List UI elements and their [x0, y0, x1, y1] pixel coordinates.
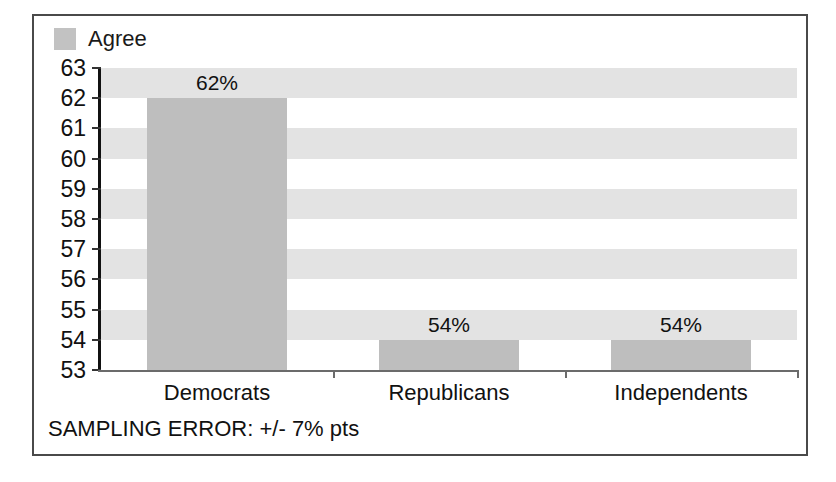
y-tick-mark: [92, 97, 101, 99]
bar-value-label: 62%: [196, 72, 238, 93]
y-tick-label: 56: [60, 268, 86, 291]
chart-figure: Agree 6362616059585756555453 62%54%54% D…: [0, 0, 836, 482]
y-tick-mark: [92, 188, 101, 190]
y-tick-label: 63: [60, 57, 86, 80]
legend-label-agree: Agree: [88, 28, 147, 50]
chart-frame: Agree 6362616059585756555453 62%54%54% D…: [32, 14, 808, 456]
y-tick-label: 53: [60, 359, 86, 382]
bar: [147, 98, 287, 370]
y-tick-label: 62: [60, 87, 86, 110]
bar: [379, 340, 519, 370]
y-tick-label: 61: [60, 117, 86, 140]
y-tick-label: 59: [60, 177, 86, 200]
y-tick-label: 60: [60, 147, 86, 170]
y-tick-mark: [92, 248, 101, 250]
x-axis-tick: [565, 370, 567, 378]
y-tick-mark: [92, 339, 101, 341]
y-tick-mark: [92, 127, 101, 129]
y-tick-label: 57: [60, 238, 86, 261]
x-axis-category-label: Republicans: [388, 382, 509, 404]
x-axis-tick: [333, 370, 335, 378]
x-axis-category-label: Democrats: [164, 382, 270, 404]
bar-value-label: 54%: [428, 314, 470, 335]
y-tick-mark: [92, 158, 101, 160]
bar-value-label: 54%: [660, 314, 702, 335]
x-axis-line: [98, 370, 797, 372]
x-axis-category-label: Independents: [614, 382, 747, 404]
y-tick-mark: [92, 278, 101, 280]
y-tick-label: 55: [60, 298, 86, 321]
y-tick-mark: [92, 67, 101, 69]
x-axis-tick: [797, 370, 799, 378]
y-tick-mark: [92, 218, 101, 220]
y-axis: 6362616059585756555453: [34, 68, 92, 370]
legend-swatch-agree: [54, 28, 76, 50]
y-tick-label: 58: [60, 208, 86, 231]
y-tick-label: 54: [60, 328, 86, 351]
y-tick-mark: [92, 309, 101, 311]
bar: [611, 340, 751, 370]
chart-legend: Agree: [54, 28, 147, 50]
sampling-error-note: SAMPLING ERROR: +/- 7% pts: [48, 418, 359, 440]
plot-block: 6362616059585756555453 62%54%54%: [34, 68, 806, 370]
